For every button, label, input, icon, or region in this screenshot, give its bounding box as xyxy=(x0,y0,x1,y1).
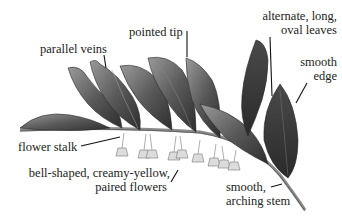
label-parallel-veins: parallel veins xyxy=(40,42,107,56)
label-smooth-stem-line2: arching stem xyxy=(226,194,290,208)
label-alternate-leaves-line2: oval leaves xyxy=(242,23,337,37)
label-pointed-tip: pointed tip xyxy=(129,25,183,39)
label-alternate-leaves-line1: alternate, long, xyxy=(242,9,337,23)
label-bell-flowers-line2: paired flowers xyxy=(10,180,167,194)
label-bell-flowers-line1: bell-shaped, creamy-yellow, xyxy=(10,166,170,180)
label-smooth-stem-line1: smooth, xyxy=(226,180,266,194)
label-smooth-edge-line2: edge xyxy=(280,69,337,83)
leaves xyxy=(20,40,298,178)
label-flower-stalk: flower stalk xyxy=(18,140,77,154)
label-smooth-edge-line1: smooth xyxy=(280,55,337,69)
flowers xyxy=(116,133,240,170)
plant-diagram: parallel veins pointed tip alternate, lo… xyxy=(0,0,342,218)
